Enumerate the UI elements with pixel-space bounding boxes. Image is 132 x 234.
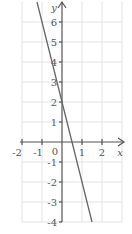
svg-text:6: 6 [51,17,57,28]
svg-text:1: 1 [79,147,85,158]
svg-text:2: 2 [99,147,105,158]
svg-text:5: 5 [51,37,57,48]
svg-text:-3: -3 [47,197,57,208]
y-axis-label: y [50,2,57,13]
chart-canvas: -2 -1 0 1 2 x y 6 5 4 3 2 1 -1 -2 -3 -4 [0,0,132,234]
x-axis-label: x [117,147,123,158]
svg-text:-4: -4 [47,217,57,228]
svg-text:-2: -2 [47,177,57,188]
data-line [37,2,92,222]
svg-text:2: 2 [51,97,57,108]
grid [22,2,122,222]
svg-text:-1: -1 [33,147,43,158]
svg-text:0: 0 [52,146,58,157]
svg-text:-1: -1 [47,157,57,168]
svg-text:-2: -2 [12,147,22,158]
y-tick-labels: y 6 5 4 3 2 1 -1 -2 -3 -4 [47,2,57,228]
x-tick-labels: -2 -1 0 1 2 x [12,146,123,158]
svg-text:1: 1 [51,117,57,128]
